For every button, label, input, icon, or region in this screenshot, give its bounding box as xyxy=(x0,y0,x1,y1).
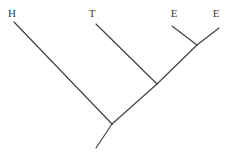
cladogram-figure: HTEE xyxy=(0,0,232,154)
branch-to-tip-e2 xyxy=(197,28,219,45)
tip-label-h: H xyxy=(4,8,20,19)
root-branch xyxy=(96,124,112,148)
tip-label-t: T xyxy=(84,8,100,19)
branch-tee-to-htee xyxy=(112,84,157,124)
tip-label-e1: E xyxy=(166,8,182,19)
branch-to-tip-t xyxy=(96,24,157,84)
branch-to-tip-e1 xyxy=(172,26,197,45)
branch-ee-to-tee xyxy=(157,45,197,84)
branch-group xyxy=(14,22,219,148)
branch-to-tip-h xyxy=(14,22,112,124)
tip-label-e2: E xyxy=(208,8,224,19)
tree-diagram xyxy=(0,0,232,154)
